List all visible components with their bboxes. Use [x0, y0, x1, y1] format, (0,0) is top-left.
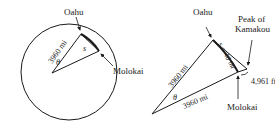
label-theta: θ: [56, 58, 60, 67]
diagram-canvas: Oahu Molokai 3960 mi s θ Oahu Peak of Ka…: [0, 0, 275, 121]
label-peak-line2: Kamakou: [235, 24, 270, 34]
label-molokai: Molokai: [227, 102, 258, 112]
label-arc-s: s = 40 mi: [216, 41, 237, 70]
label-theta: θ: [173, 93, 177, 102]
radius-lower: [152, 72, 238, 114]
label-radius-lower: 3960 mi: [181, 92, 210, 111]
right-diagram: Oahu Peak of Kamakou s = 40 mi 3960 mi 3…: [152, 7, 275, 114]
earth-circle: [21, 24, 117, 120]
label-radius-upper: 3960 mi: [166, 62, 190, 89]
left-diagram: Oahu Molokai 3960 mi s θ: [21, 7, 144, 120]
label-peak-line1: Peak of: [238, 14, 265, 24]
molokai-arrow: [101, 54, 113, 66]
label-oahu: Oahu: [64, 7, 84, 17]
oahu-arrow: [206, 27, 211, 37]
label-height: 4,961 ft: [251, 77, 275, 86]
height-segment: [238, 69, 247, 72]
label-arc-s: s: [83, 44, 86, 53]
peak-arrow: [248, 40, 252, 65]
label-molokai: Molokai: [113, 66, 144, 76]
label-oahu: Oahu: [193, 7, 213, 17]
height-brace: [241, 72, 248, 75]
oahu-arrow: [76, 17, 80, 30]
